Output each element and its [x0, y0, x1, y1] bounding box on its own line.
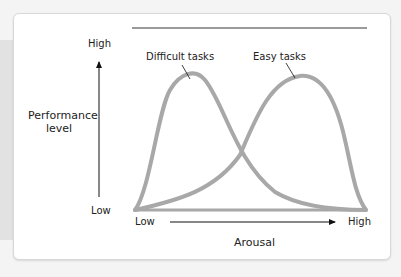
- difficult-tasks-label: Difficult tasks: [146, 51, 214, 62]
- x-high-label: High: [348, 216, 371, 227]
- y-low-label: Low: [91, 205, 111, 216]
- easy-tasks-curve: [135, 76, 366, 210]
- yerkes-dodson-diagram: [0, 0, 401, 277]
- y-title-line2: level: [28, 122, 90, 135]
- difficult-tasks-curve: [135, 73, 366, 210]
- y-axis-title: Performance level: [28, 109, 90, 135]
- y-title-line1: Performance: [28, 109, 90, 122]
- easy-leader: [286, 63, 295, 78]
- y-high-label: High: [88, 38, 111, 49]
- x-axis-title: Arousal: [234, 236, 275, 249]
- easy-tasks-label: Easy tasks: [253, 51, 306, 62]
- x-low-label: Low: [135, 216, 155, 227]
